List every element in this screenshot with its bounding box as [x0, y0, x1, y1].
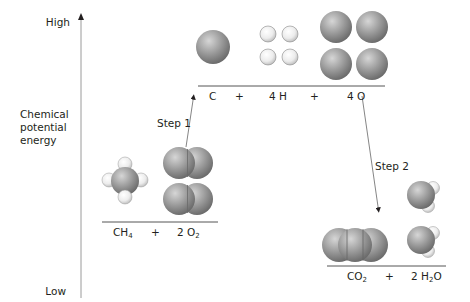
water-molecule-icon [407, 181, 440, 213]
atoms-plus-2: + [310, 91, 319, 102]
carbon-atom-icon [196, 30, 230, 64]
step2-label: Step 2 [375, 161, 409, 172]
water-molecule-icon [407, 226, 440, 258]
product-co2: CO2 [347, 271, 367, 284]
atoms-o: 4 O [347, 91, 365, 102]
axis-title-line: energy [20, 134, 70, 147]
step2-arrow [362, 96, 379, 210]
step1-label: Step 1 [157, 118, 191, 129]
energy-diagram [0, 0, 470, 302]
reactant-ch4: CH4 [113, 227, 133, 240]
reactants-plus: + [151, 227, 160, 238]
atoms-h: 4 H [269, 91, 287, 102]
oxygen-molecule-icon [163, 147, 213, 179]
oxygen-molecule-icon [163, 183, 213, 215]
hydrogen-atoms-icon [260, 26, 298, 65]
oxygen-atoms-icon [320, 11, 388, 80]
axis-title-line: potential [20, 121, 70, 134]
products-plus: + [385, 271, 394, 282]
methane-molecule-icon [102, 157, 148, 204]
carbon-dioxide-molecule-icon [322, 228, 388, 262]
axis-title-line: Chemical [20, 108, 70, 121]
axis-high-label: High [30, 16, 70, 29]
axis-title: Chemical potential energy [20, 108, 70, 147]
atoms-c: C [209, 91, 216, 102]
atoms-plus-1: + [235, 91, 244, 102]
product-h2o: 2 H2O [411, 271, 442, 284]
axis-arrow-icon [78, 13, 84, 20]
axis-low-label: Low [30, 285, 66, 298]
reactant-o2: 2 O2 [177, 227, 200, 240]
energy-axis [78, 13, 84, 298]
